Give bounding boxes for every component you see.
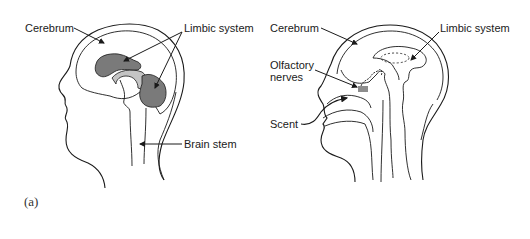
palate-line [325,121,365,126]
brainstem-line-mid [144,108,146,164]
figure-caption: (a) [24,194,38,210]
label-cerebrum-right: Cerebrum [270,22,319,34]
cerebrum-arrow [74,28,104,43]
right-head-diagram: Cerebrum Limbic system Olfactory nerves … [265,0,530,239]
label-cerebrum-left: Cerebrum [25,22,74,34]
head-outline [59,24,184,188]
limbic-region [373,46,426,180]
limbic-inner-line [373,58,399,80]
label-olfactory-nerves: Olfactory nerves [270,59,314,83]
inner-skull-outline [337,31,443,100]
label-limbic-system-left: Limbic system [184,22,254,34]
label-scent: Scent [270,118,298,130]
left-head-diagram: Cerebrum Limbic system Brain stem (a) [0,0,265,239]
left-head-drawing [0,0,265,239]
label-brain-stem: Brain stem [184,138,237,150]
brainstem-line-left [120,80,132,166]
neck-back-line [421,104,433,140]
right-head-drawing [265,0,530,239]
spinal-cord-line [381,100,383,182]
limbic-dashed-ellipse [381,53,409,63]
olfactory-nerve-fibers [359,86,367,92]
throat-line [365,124,373,180]
limbic-arrow-1 [124,32,182,61]
olfactory-arrow [315,70,357,87]
label-limbic-system-right: Limbic system [440,22,510,34]
limbic-lower-shape [140,74,166,107]
